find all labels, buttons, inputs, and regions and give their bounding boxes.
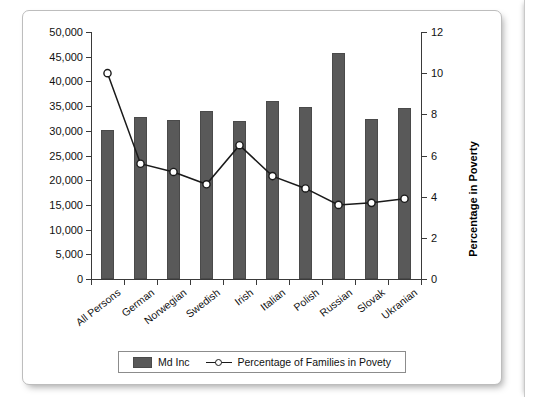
legend-item-md-inc: Md Inc — [133, 356, 190, 368]
y-tick-right — [422, 197, 427, 198]
y-tick-label-left: 10,000 — [23, 225, 83, 236]
x-tick — [256, 280, 257, 285]
x-axis-label: Swedish — [183, 286, 222, 320]
data-point-marker — [104, 70, 111, 77]
legend-item-poverty: Percentage of Families in Povety — [206, 356, 392, 368]
x-axis-label: Ukranian — [379, 286, 420, 321]
y-tick-right — [422, 156, 427, 157]
y-tick-label-right: 6 — [431, 151, 465, 162]
y-tick-label-left: 5,000 — [23, 249, 83, 260]
poverty-line-path — [108, 73, 405, 205]
x-axis-label: All Persons — [74, 286, 123, 328]
data-point-marker — [368, 199, 375, 206]
data-point-marker — [302, 185, 309, 192]
x-tick — [322, 280, 323, 285]
y-tick-right — [422, 279, 427, 280]
line-series-poverty — [91, 32, 421, 279]
chart-legend: Md Inc Percentage of Families in Povety — [118, 351, 406, 373]
y-tick-label-left: 40,000 — [23, 76, 83, 87]
plot-area: 05,00010,00015,00020,00025,00030,00035,0… — [91, 32, 421, 279]
y-tick-label-right: 4 — [431, 192, 465, 203]
x-tick — [421, 280, 422, 285]
bar-swatch-icon — [133, 357, 152, 368]
y-tick-label-left: 0 — [23, 274, 83, 285]
y-tick-label-left: 35,000 — [23, 101, 83, 112]
data-point-marker — [236, 142, 243, 149]
y-tick-label-right: 0 — [431, 274, 465, 285]
y-tick-label-right: 8 — [431, 109, 465, 120]
y-tick-right — [422, 114, 427, 115]
data-point-marker — [335, 201, 342, 208]
x-tick — [355, 280, 356, 285]
x-axis-label: Irish — [232, 286, 255, 308]
y-tick-label-left: 45,000 — [23, 52, 83, 63]
y-tick-right — [422, 73, 427, 74]
adjacent-page-edge — [524, 0, 560, 397]
y-tick-right — [422, 32, 427, 33]
x-axis-label: Italian — [258, 286, 287, 313]
x-tick — [91, 280, 92, 285]
y-tick-label-left: 15,000 — [23, 200, 83, 211]
legend-label-poverty: Percentage of Families in Povety — [238, 356, 392, 368]
legend-label-md-inc: Md Inc — [158, 356, 190, 368]
data-point-marker — [203, 181, 210, 188]
line-circle-marker-icon — [206, 358, 232, 367]
chart-panel: Income Percentage in Poverty 05,00010,00… — [22, 10, 502, 385]
dual-axis-chart: Income Percentage in Poverty 05,00010,00… — [23, 11, 503, 386]
data-point-marker — [170, 168, 177, 175]
y-tick-label-right: 12 — [431, 27, 465, 38]
y-tick-label-left: 25,000 — [23, 151, 83, 162]
data-point-marker — [269, 172, 276, 179]
x-axis-label: Russian — [317, 286, 354, 319]
y-tick-label-left: 20,000 — [23, 175, 83, 186]
data-point-marker — [137, 160, 144, 167]
y-axis-right-title: Percentage in Poverty — [467, 141, 479, 257]
data-point-marker — [401, 195, 408, 202]
x-tick — [190, 280, 191, 285]
x-tick — [124, 280, 125, 285]
x-tick — [157, 280, 158, 285]
x-tick — [388, 280, 389, 285]
y-tick-label-right: 2 — [431, 233, 465, 244]
y-tick-label-left: 50,000 — [23, 27, 83, 38]
x-tick — [223, 280, 224, 285]
y-tick-right — [422, 238, 427, 239]
x-tick — [289, 280, 290, 285]
y-tick-label-right: 10 — [431, 68, 465, 79]
y-tick-label-left: 30,000 — [23, 126, 83, 137]
